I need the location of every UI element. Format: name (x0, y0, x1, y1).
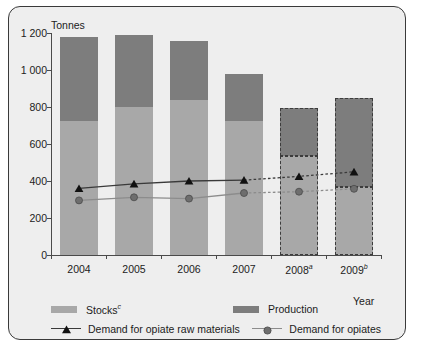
marker-demand-opiates-2006 (186, 195, 193, 202)
x-tick-mark-end (381, 255, 382, 259)
legend-label-demand-opiates: Demand for opiates (289, 323, 381, 335)
x-tick-mark-4 (271, 255, 272, 259)
marker-demand-opiates-2009 (351, 185, 358, 192)
chart-frame: Tonnes Year 0 200 400 600 800 1 000 (8, 6, 406, 340)
legend-label-stocks: Stocksc (86, 303, 121, 316)
legend-label-production: Production (268, 303, 318, 315)
x-tick-mark-3 (216, 255, 217, 259)
legend-label-demand-raw: Demand for opiate raw materials (88, 323, 240, 335)
x-tick-2009-superscript: b (364, 263, 368, 270)
legend-item-demand-opiates[interactable]: Demand for opiates (252, 323, 381, 335)
demand-opiates-line-solid (79, 193, 244, 200)
y-tick-label-400: 400 (11, 175, 47, 187)
x-tick-label-2005: 2005 (106, 263, 162, 275)
y-tick-label-800: 800 (11, 101, 47, 113)
line-series-overlay (51, 33, 381, 255)
marker-demand-opiates-2007 (241, 190, 248, 197)
stocks-swatch-icon (51, 306, 77, 313)
legend-item-stocks[interactable]: Stocksc (51, 303, 233, 316)
marker-demand-opiates-2004 (76, 197, 83, 204)
x-tick-label-2008: 2008a (271, 263, 327, 276)
y-tick-label-1200: 1 200 (8, 27, 47, 39)
chart-legend: Stocksc Production Demand for opiate raw… (51, 303, 381, 340)
y-tick-label-200: 200 (11, 212, 47, 224)
legend-item-production[interactable]: Production (233, 303, 318, 315)
marker-demand-opiates-2008 (296, 188, 303, 195)
x-tick-label-2009: 2009b (326, 263, 382, 276)
x-tick-mark-2 (161, 255, 162, 259)
x-tick-2008-superscript: a (309, 263, 313, 270)
y-tick-label-600: 600 (11, 138, 47, 150)
legend-row-lines: Demand for opiate raw materials Demand f… (51, 323, 381, 335)
x-tick-mark-start (51, 255, 52, 259)
y-axis-title: Tonnes (51, 19, 85, 31)
legend-item-demand-raw[interactable]: Demand for opiate raw materials (51, 323, 252, 335)
triangle-marker-icon (51, 323, 81, 334)
circle-marker-icon (252, 323, 282, 334)
marker-demand-opiates-2005 (131, 194, 138, 201)
y-tick-label-1000: 1 000 (8, 64, 47, 76)
x-tick-label-2006: 2006 (161, 263, 217, 275)
production-swatch-icon (233, 306, 259, 313)
demand-raw-line-solid (79, 180, 244, 188)
x-tick-label-2007: 2007 (216, 263, 272, 275)
y-tick-label-0: 0 (11, 249, 47, 261)
stocks-superscript: c (118, 303, 122, 310)
x-tick-mark-5 (326, 255, 327, 259)
plot-area: 0 200 400 600 800 1 000 1 200 (51, 33, 381, 255)
x-tick-label-2004: 2004 (51, 263, 107, 275)
legend-row-bars: Stocksc Production (51, 303, 381, 316)
x-tick-mark-1 (106, 255, 107, 259)
